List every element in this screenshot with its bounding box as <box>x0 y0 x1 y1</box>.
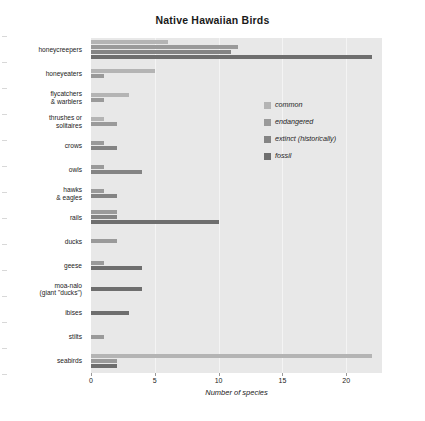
bar-extinct <box>91 170 142 174</box>
bar-extinct <box>91 194 117 198</box>
y-axis-label-line: ducks <box>65 238 82 246</box>
y-axis-label-line: owls <box>69 166 82 174</box>
x-axis-tick <box>346 373 347 376</box>
legend-label: common <box>275 100 303 109</box>
y-axis-label-line: crows <box>65 142 82 150</box>
x-axis-tick-label: 15 <box>279 377 287 384</box>
bar-row <box>91 86 382 110</box>
bar-endangered <box>91 45 238 49</box>
y-axis-label-line: honeyeaters <box>46 70 82 78</box>
legend-label: fossil <box>275 151 291 160</box>
margin-tick <box>2 36 7 37</box>
x-axis-tick <box>155 373 156 376</box>
y-axis-label: rails <box>70 214 82 222</box>
y-axis-label-line: & eagles <box>56 194 82 202</box>
bar-common <box>91 40 168 44</box>
x-axis-tick <box>282 373 283 376</box>
bar-row <box>91 206 382 230</box>
legend-swatch-icon <box>264 119 271 126</box>
bar-endangered <box>91 210 117 214</box>
bar-common <box>91 93 129 97</box>
bar-endangered <box>91 189 104 193</box>
bar-endangered <box>91 239 117 243</box>
legend-label: extinct (historically) <box>275 134 336 143</box>
y-axis-label-line: (giant "ducks") <box>40 289 82 297</box>
y-axis-label-line: hawks <box>56 186 82 194</box>
y-axis-label-line: rails <box>70 214 82 222</box>
bar-endangered <box>91 141 104 145</box>
y-axis-label: thrushes orsolitaires <box>49 114 82 129</box>
y-axis-label-line: ibises <box>65 309 82 317</box>
y-axis-label-line: stilts <box>69 333 82 341</box>
y-axis-label: stilts <box>69 333 82 341</box>
bar-fossil <box>91 220 219 224</box>
bar-row <box>91 62 382 86</box>
bar-row <box>91 325 382 349</box>
y-axis-label: owls <box>69 166 82 174</box>
bar-endangered <box>91 261 104 265</box>
legend-swatch-icon <box>264 136 271 143</box>
y-axis-label-line: & warblers <box>50 98 82 106</box>
y-axis-label-line: honeycreepers <box>38 46 82 54</box>
y-axis-label: crows <box>65 142 82 150</box>
bar-common <box>91 69 155 73</box>
bar-row <box>91 110 382 134</box>
bar-fossil <box>91 311 129 315</box>
margin-tick <box>2 374 7 375</box>
y-axis-label-line: solitaires <box>49 122 82 130</box>
bar-fossil <box>91 364 117 368</box>
bar-extinct <box>91 146 117 150</box>
y-axis-label: moa-nalo(giant "ducks") <box>40 282 82 297</box>
bar-extinct <box>91 215 117 219</box>
x-axis-tick-label: 0 <box>89 377 93 384</box>
bar-fossil <box>91 55 372 59</box>
bar-extinct <box>91 50 231 54</box>
bar-row <box>91 349 382 373</box>
y-axis-label: honeycreepers <box>38 46 82 54</box>
bar-endangered <box>91 359 117 363</box>
chart-figure: Native Hawaiian Birds honeycreepershoney… <box>0 0 425 421</box>
chart-title: Native Hawaiian Birds <box>0 14 425 26</box>
y-axis-label: seabirds <box>57 357 82 365</box>
bar-fossil <box>91 266 142 270</box>
bar-row <box>91 182 382 206</box>
bar-endangered <box>91 165 104 169</box>
bar-endangered <box>91 98 104 102</box>
legend-swatch-icon <box>264 102 271 109</box>
bar-common <box>91 354 372 358</box>
y-axis-label: hawks& eagles <box>56 186 82 201</box>
bar-common <box>91 117 104 121</box>
y-axis-label: honeyeaters <box>46 70 82 78</box>
y-axis-label-line: thrushes or <box>49 114 82 122</box>
x-axis-tick-label: 5 <box>153 377 157 384</box>
x-axis-tick <box>91 373 92 376</box>
bar-row <box>91 277 382 301</box>
y-axis-label-line: moa-nalo <box>40 282 82 290</box>
y-axis-label: ibises <box>65 309 82 317</box>
bar-rows <box>91 38 382 373</box>
bar-row <box>91 253 382 277</box>
y-axis-label-line: geese <box>64 262 82 270</box>
x-axis-tick-label: 10 <box>215 377 223 384</box>
y-axis-label: ducks <box>65 238 82 246</box>
bar-endangered <box>91 74 104 78</box>
bar-row <box>91 134 382 158</box>
bar-endangered <box>91 335 104 339</box>
bar-row <box>91 158 382 182</box>
legend-swatch-icon <box>264 153 271 160</box>
x-axis-title: Number of species <box>91 388 382 397</box>
y-axis-label: geese <box>64 262 82 270</box>
y-axis-label-line: flycatchers <box>50 90 82 98</box>
x-axis-tick-label: 20 <box>342 377 350 384</box>
y-axis-category-labels: honeycreepershoneyeatersflycatchers& war… <box>0 38 88 373</box>
bar-row <box>91 301 382 325</box>
bar-fossil <box>91 287 142 291</box>
bar-endangered <box>91 122 117 126</box>
x-axis-tick <box>219 373 220 376</box>
y-axis-label-line: seabirds <box>57 357 82 365</box>
legend-label: endangered <box>275 117 313 126</box>
plot-area <box>91 38 382 373</box>
y-axis-label: flycatchers& warblers <box>50 90 82 105</box>
bar-row <box>91 229 382 253</box>
bar-row <box>91 38 382 62</box>
